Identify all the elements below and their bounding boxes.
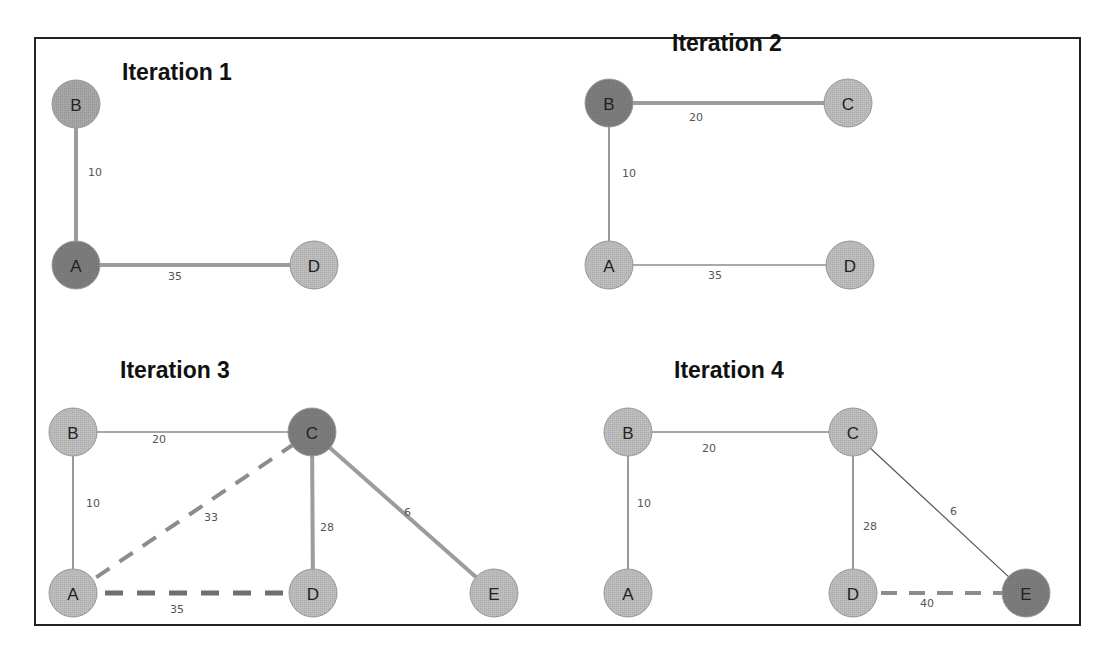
node-label: C (306, 424, 318, 443)
node-a: A (49, 569, 97, 617)
edge-weight-label: 6 (950, 505, 957, 518)
node-label: B (603, 95, 614, 114)
edge-a-c (73, 432, 312, 593)
node-e: E (1002, 569, 1050, 617)
node-label: D (847, 585, 859, 604)
node-c: C (829, 408, 877, 456)
edge-weight-label: 20 (152, 433, 166, 446)
node-d: D (826, 241, 874, 289)
panel-iteration-1: Iteration 11035BAD (52, 59, 338, 289)
panel-iteration-3: Iteration 320103328635BCADE (49, 357, 518, 617)
edge-weight-label: 28 (863, 520, 877, 533)
edge-c-e (312, 432, 494, 593)
edge-weight-label: 10 (622, 167, 636, 180)
node-label: E (488, 585, 499, 604)
node-label: E (1020, 585, 1031, 604)
node-label: C (842, 95, 854, 114)
node-a: A (52, 241, 100, 289)
panel-title: Iteration 4 (674, 357, 784, 383)
edge-weight-label: 10 (86, 497, 100, 510)
node-label: B (622, 424, 633, 443)
edge-weight-label: 10 (637, 497, 651, 510)
node-c: C (824, 79, 872, 127)
edge-weight-label: 40 (920, 597, 934, 610)
node-label: D (307, 585, 319, 604)
panel-iteration-2: Iteration 2201035BCAD (585, 30, 874, 289)
panel-title: Iteration 2 (672, 30, 782, 56)
edge-weight-label: 33 (204, 511, 218, 524)
mst-iterations-diagram: Iteration 11035BADIteration 2201035BCADI… (0, 0, 1116, 653)
panel-iteration-4: Iteration 4201028640BCADE (604, 357, 1050, 617)
edge-weight-label: 35 (170, 603, 184, 616)
node-b: B (585, 79, 633, 127)
edge-c-e (853, 432, 1026, 593)
edge-weight-label: 6 (404, 506, 411, 519)
edge-weight-label: 35 (708, 269, 722, 282)
node-label: A (70, 257, 82, 276)
edge-weight-label: 10 (88, 166, 102, 179)
node-a: A (604, 569, 652, 617)
node-b: B (52, 80, 100, 128)
node-b: B (49, 408, 97, 456)
node-c: C (288, 408, 336, 456)
node-label: A (603, 257, 615, 276)
node-label: C (847, 424, 859, 443)
edge-weight-label: 20 (689, 111, 703, 124)
node-label: B (70, 96, 81, 115)
node-label: D (844, 257, 856, 276)
node-d: D (829, 569, 877, 617)
node-label: B (67, 424, 78, 443)
node-label: A (622, 585, 634, 604)
panel-title: Iteration 1 (122, 59, 232, 85)
node-e: E (470, 569, 518, 617)
node-a: A (585, 241, 633, 289)
node-label: A (67, 585, 79, 604)
edge-weight-label: 20 (702, 442, 716, 455)
node-d: D (289, 569, 337, 617)
node-b: B (604, 408, 652, 456)
node-d: D (290, 241, 338, 289)
edge-weight-label: 35 (168, 270, 182, 283)
panel-title: Iteration 3 (120, 357, 230, 383)
edge-weight-label: 28 (320, 521, 334, 534)
node-label: D (308, 257, 320, 276)
